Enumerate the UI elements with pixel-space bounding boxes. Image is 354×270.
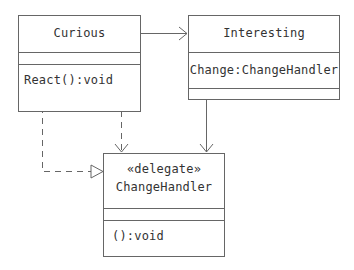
operation: React():void xyxy=(24,73,140,87)
operations-section: ():void xyxy=(104,220,224,256)
name-section: «delegate» ChangeHandler xyxy=(104,154,224,208)
class-name: Curious xyxy=(19,16,140,52)
operations-section xyxy=(189,88,339,99)
class-changehandler[interactable]: «delegate» ChangeHandler ():void xyxy=(103,153,225,257)
attributes-section: Change:ChangeHandler xyxy=(189,52,339,88)
association-curious-interesting xyxy=(140,27,187,40)
attributes-section xyxy=(104,208,224,220)
operations-section: React():void xyxy=(19,64,140,111)
class-curious[interactable]: Curious React():void xyxy=(18,15,141,112)
stereotype: «delegate» xyxy=(104,160,224,178)
class-name: ChangeHandler xyxy=(104,178,224,196)
class-name: Interesting xyxy=(189,16,339,52)
attributes-section xyxy=(19,52,140,64)
association-interesting-changehandler xyxy=(200,99,213,152)
attribute: Change:ChangeHandler xyxy=(189,53,339,87)
operation: ():void xyxy=(112,229,224,243)
dependency-curious-changehandler xyxy=(115,111,128,152)
class-interesting[interactable]: Interesting Change:ChangeHandler xyxy=(188,15,340,100)
